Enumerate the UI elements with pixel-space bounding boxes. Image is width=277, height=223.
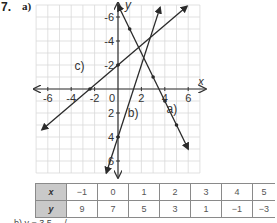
x-tick-label: 0: [109, 92, 115, 104]
x-tick-label: -4: [66, 92, 76, 104]
table-cell: 5: [253, 184, 276, 201]
y-axis-label: y: [124, 0, 132, 12]
table-cell: 2: [160, 184, 191, 201]
data-point: [88, 87, 92, 91]
table-cell: −1: [222, 201, 253, 218]
next-part-text: b) y = 3.5 ... /: [14, 218, 67, 223]
x-tick-label: 2: [138, 92, 144, 104]
values-table: x −1 0 1 2 3 4 5 y 9 7 5 3 1 −1 −3: [35, 183, 275, 218]
table-cell: 3: [191, 184, 222, 201]
table-cell: −3: [253, 201, 276, 218]
x-axis-label: x: [197, 75, 204, 87]
y-tick-label: 2: [108, 107, 114, 119]
data-point: [151, 75, 155, 79]
table-cell: 5: [129, 201, 160, 218]
table-cell: 1: [129, 184, 160, 201]
table-cell: 4: [222, 184, 253, 201]
data-point: [116, 135, 120, 139]
line-c: [42, 6, 187, 130]
table-cell: 1: [191, 201, 222, 218]
x-tick-label: -6: [43, 92, 53, 104]
data-point: [175, 123, 179, 127]
table-cell: 9: [67, 201, 98, 218]
y-tick-label: -6: [104, 11, 114, 23]
table-cell: 3: [160, 201, 191, 218]
line-label: c): [74, 59, 84, 73]
y-tick-label: 4: [108, 131, 114, 143]
line-b: [106, 7, 160, 173]
table-row-x: x −1 0 1 2 3 4 5: [36, 184, 276, 201]
table-cell: 0: [98, 184, 129, 201]
table-row-y: y 9 7 5 3 1 −1 −3: [36, 201, 276, 218]
x-tick-label: 6: [185, 92, 191, 104]
row-header-x: x: [36, 184, 67, 201]
line-label: b): [128, 106, 139, 120]
x-tick-label: -2: [90, 92, 100, 104]
line-label: a): [166, 102, 177, 116]
row-header-y: y: [36, 201, 67, 218]
table-cell: 7: [98, 201, 129, 218]
data-point: [128, 27, 132, 31]
y-tick-label: -2: [104, 59, 114, 71]
y-tick-label: -4: [104, 35, 114, 47]
table-cell: −1: [67, 184, 98, 201]
coordinate-graph: -6-4-20246642-2-4-6xya)b)c): [0, 0, 277, 183]
axis-labels: -6-4-20246642-2-4-6xya)b)c): [43, 0, 204, 167]
data-point: [116, 63, 120, 67]
y-tick-label: 6: [108, 155, 114, 167]
